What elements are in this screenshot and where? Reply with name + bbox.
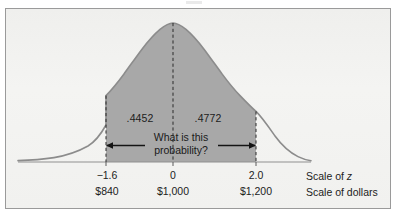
probability-question-line-1: What is this (154, 131, 208, 144)
left-area-probability-label: .4452 (127, 113, 154, 124)
dollar-tick-label-1200: $1,200 (240, 186, 272, 197)
right-area-probability-label: .4772 (195, 113, 222, 124)
z-tick-label-neg-1-6: −1.6 (97, 170, 118, 181)
probability-question-annotation: What is this probability? (154, 131, 208, 156)
dollar-axis-name: Scale of dollars (306, 186, 378, 198)
dollar-tick-label-840: $840 (95, 186, 118, 197)
z-tick-label-2-0: 2.0 (249, 170, 264, 181)
dollar-tick-label-1000: $1,000 (157, 186, 189, 197)
normal-distribution-figure: .4452 .4772 What is this probability? −1… (0, 0, 401, 219)
z-tick-label-0: 0 (170, 170, 176, 181)
z-axis-name-text: Scale of (306, 170, 347, 182)
probability-question-line-2: probability? (154, 144, 208, 157)
z-axis-symbol: z (347, 170, 352, 182)
z-axis-name: Scale of z (306, 170, 352, 182)
